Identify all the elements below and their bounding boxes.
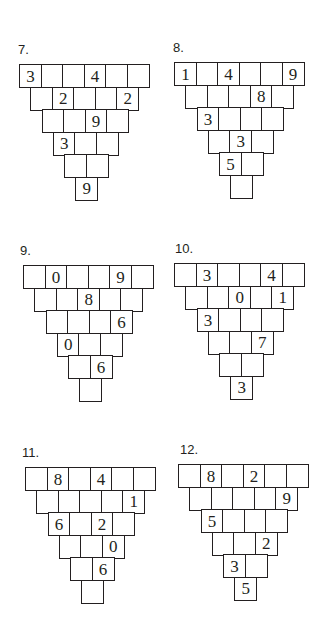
- empty-cell[interactable]: [228, 85, 251, 109]
- pyramid-row: 9: [189, 487, 297, 511]
- empty-cell[interactable]: [286, 464, 309, 488]
- empty-cell[interactable]: [62, 64, 85, 88]
- empty-cell[interactable]: [78, 333, 101, 357]
- empty-cell[interactable]: [41, 64, 64, 88]
- given-number-cell: 4: [217, 62, 240, 86]
- given-number-cell: 4: [84, 64, 107, 88]
- empty-cell[interactable]: [106, 109, 129, 133]
- empty-cell[interactable]: [66, 265, 89, 289]
- given-number-cell: 3: [229, 130, 252, 154]
- empty-cell[interactable]: [120, 288, 143, 312]
- empty-cell[interactable]: [217, 263, 240, 287]
- pyramid-row: 84: [25, 467, 154, 491]
- empty-cell[interactable]: [240, 107, 263, 131]
- empty-cell[interactable]: [230, 175, 253, 199]
- empty-cell[interactable]: [265, 509, 288, 533]
- empty-cell[interactable]: [46, 310, 69, 334]
- empty-cell[interactable]: [133, 467, 156, 491]
- empty-cell[interactable]: [174, 263, 197, 287]
- empty-cell[interactable]: [196, 62, 219, 86]
- empty-cell[interactable]: [69, 512, 92, 536]
- empty-cell[interactable]: [67, 310, 90, 334]
- empty-cell[interactable]: [105, 64, 128, 88]
- empty-cell[interactable]: [218, 107, 241, 131]
- empty-cell[interactable]: [221, 464, 244, 488]
- empty-cell[interactable]: [219, 353, 242, 377]
- empty-cell[interactable]: [244, 509, 267, 533]
- empty-cell[interactable]: [96, 132, 119, 156]
- empty-cell[interactable]: [218, 308, 241, 332]
- empty-cell[interactable]: [222, 509, 245, 533]
- given-number-cell: 9: [109, 265, 132, 289]
- empty-cell[interactable]: [282, 263, 305, 287]
- empty-cell[interactable]: [58, 490, 81, 514]
- empty-cell[interactable]: [68, 467, 91, 491]
- empty-cell[interactable]: [185, 85, 208, 109]
- empty-cell[interactable]: [232, 487, 255, 511]
- empty-cell[interactable]: [208, 130, 231, 154]
- empty-cell[interactable]: [86, 154, 109, 178]
- empty-cell[interactable]: [59, 535, 82, 559]
- empty-cell[interactable]: [68, 355, 91, 379]
- empty-cell[interactable]: [111, 467, 134, 491]
- empty-cell[interactable]: [23, 265, 46, 289]
- empty-cell[interactable]: [261, 107, 284, 131]
- empty-cell[interactable]: [89, 310, 112, 334]
- empty-cell[interactable]: [30, 87, 53, 111]
- empty-cell[interactable]: [207, 85, 230, 109]
- empty-cell[interactable]: [254, 487, 277, 511]
- empty-cell[interactable]: [34, 288, 57, 312]
- empty-cell[interactable]: [261, 308, 284, 332]
- empty-cell[interactable]: [208, 331, 231, 355]
- empty-cell[interactable]: [56, 288, 79, 312]
- empty-cell[interactable]: [189, 487, 212, 511]
- puzzle-number: 7.: [18, 42, 29, 57]
- pyramid-row: 8: [34, 288, 142, 312]
- pyramid-row: 3: [208, 130, 273, 154]
- empty-cell[interactable]: [131, 265, 154, 289]
- pyramid-row: 0: [57, 333, 122, 357]
- pyramid-row: 3: [230, 376, 252, 400]
- empty-cell[interactable]: [239, 263, 262, 287]
- empty-cell[interactable]: [241, 353, 264, 377]
- empty-cell[interactable]: [112, 512, 135, 536]
- empty-cell[interactable]: [42, 109, 65, 133]
- empty-cell[interactable]: [127, 64, 150, 88]
- empty-cell[interactable]: [80, 535, 103, 559]
- empty-cell[interactable]: [79, 378, 102, 402]
- empty-cell[interactable]: [74, 132, 97, 156]
- given-number-cell: 3: [196, 263, 219, 287]
- empty-cell[interactable]: [239, 62, 262, 86]
- empty-cell[interactable]: [64, 154, 87, 178]
- empty-cell[interactable]: [250, 286, 273, 310]
- empty-cell[interactable]: [178, 464, 201, 488]
- given-number-cell: 4: [260, 263, 283, 287]
- empty-cell[interactable]: [100, 333, 123, 357]
- empty-cell[interactable]: [63, 109, 86, 133]
- given-number-cell: 5: [201, 509, 224, 533]
- empty-cell[interactable]: [271, 85, 294, 109]
- given-number-cell: 9: [275, 487, 298, 511]
- empty-cell[interactable]: [207, 286, 230, 310]
- empty-cell[interactable]: [245, 554, 268, 578]
- empty-cell[interactable]: [229, 331, 252, 355]
- empty-cell[interactable]: [88, 265, 111, 289]
- empty-cell[interactable]: [264, 464, 287, 488]
- empty-cell[interactable]: [70, 557, 93, 581]
- empty-cell[interactable]: [99, 288, 122, 312]
- empty-cell[interactable]: [260, 62, 283, 86]
- empty-cell[interactable]: [185, 286, 208, 310]
- empty-cell[interactable]: [73, 87, 96, 111]
- empty-cell[interactable]: [81, 580, 104, 604]
- empty-cell[interactable]: [212, 532, 235, 556]
- empty-cell[interactable]: [36, 490, 59, 514]
- empty-cell[interactable]: [79, 490, 102, 514]
- empty-cell[interactable]: [251, 130, 274, 154]
- empty-cell[interactable]: [241, 152, 264, 176]
- empty-cell[interactable]: [95, 87, 118, 111]
- empty-cell[interactable]: [233, 532, 256, 556]
- empty-cell[interactable]: [25, 467, 48, 491]
- empty-cell[interactable]: [101, 490, 124, 514]
- empty-cell[interactable]: [211, 487, 234, 511]
- empty-cell[interactable]: [240, 308, 263, 332]
